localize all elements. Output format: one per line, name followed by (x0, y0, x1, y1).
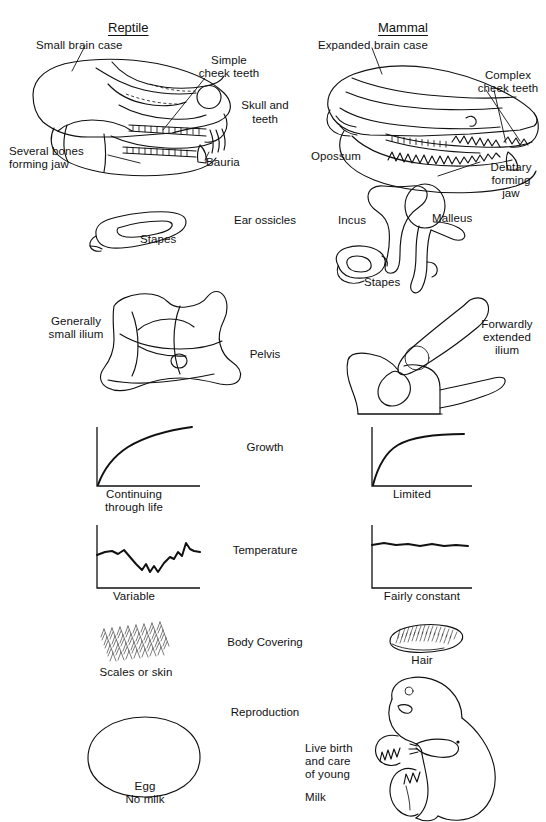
reptile-pelvis-drawing (101, 292, 241, 391)
caption-egg-no-milk: Egg No milk (110, 780, 180, 806)
caption-limited: Limited (382, 488, 442, 501)
caption-scales-or-skin: Scales or skin (88, 666, 184, 679)
label-reptile-stapes: Stapes (140, 233, 176, 246)
label-opossum: Opossum (311, 150, 361, 163)
label-incus: Incus (338, 214, 366, 227)
column-header-mammal: Mammal (378, 20, 428, 35)
caption-live-birth-and-care-of-young: Live birth and care of young (305, 742, 353, 781)
caption-continuing-through-life: Continuing through life (92, 488, 176, 514)
caption-variable: Variable (102, 590, 166, 603)
label-mammal-stapes: Stapes (364, 276, 400, 289)
label-bauria: Bauria (206, 156, 240, 169)
label-expanded-brain-case: Expanded brain case (318, 39, 428, 52)
label-small-brain-case: Small brain case (36, 39, 123, 52)
row-label-temperature: Temperature (205, 544, 325, 558)
caption-fairly-constant: Fairly constant (372, 590, 472, 603)
row-label-body-covering: Body Covering (205, 636, 325, 650)
caption-milk: Milk (305, 791, 326, 804)
row-label-skull-and-teeth: Skull and teeth (205, 99, 325, 126)
mammal-hair-drawing (390, 624, 463, 652)
reptile-scales-texture (101, 622, 169, 661)
label-simple-cheek-teeth: Simple cheek teeth (190, 54, 268, 80)
mammal-ear-ossicles-drawing (336, 184, 465, 293)
label-complex-cheek-teeth: Complex cheek teeth (470, 69, 546, 95)
figure-canvas: Reptile Mammal Skull and teeth Small bra… (0, 0, 546, 822)
label-several-bones-forming-jaw: Several bones forming jaw (9, 145, 84, 171)
mammal-growth-chart (372, 427, 472, 486)
mammal-embryo-drawing (376, 677, 496, 821)
row-label-growth: Growth (205, 441, 325, 455)
caption-hair: Hair (400, 654, 444, 667)
label-dentary-forming-jaw: Dentary forming jaw (480, 161, 542, 200)
reptile-growth-chart (97, 427, 200, 486)
mammal-temperature-chart (372, 525, 472, 588)
row-label-ear-ossicles: Ear ossicles (205, 214, 325, 228)
label-generally-small-ilium: Generally small ilium (38, 315, 114, 341)
label-forwardly-extended-ilium: Forwardly extended ilium (472, 318, 542, 357)
label-malleus: Malleus (432, 212, 472, 225)
row-label-pelvis: Pelvis (205, 348, 325, 362)
row-label-reproduction: Reproduction (205, 706, 325, 720)
column-header-reptile: Reptile (108, 20, 148, 35)
reptile-temperature-chart (97, 525, 200, 588)
